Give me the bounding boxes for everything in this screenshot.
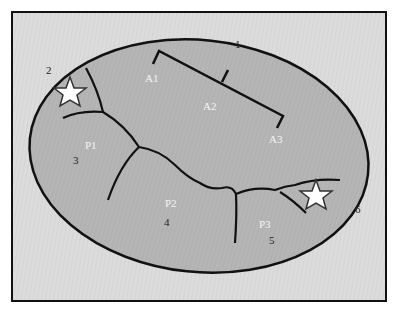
label-1: 1 — [235, 38, 241, 50]
river-tributary-south — [235, 194, 236, 243]
label-3: 3 — [73, 154, 79, 166]
label-5: 5 — [269, 234, 275, 246]
label-4: 4 — [164, 216, 170, 228]
label-a3: A3 — [269, 133, 283, 145]
label-6: 6 — [355, 203, 361, 215]
label-a1: A1 — [145, 72, 158, 84]
label-p1: P1 — [85, 139, 97, 151]
label-2: 2 — [46, 64, 52, 76]
watershed-diagram: A1 A2 A3 P1 P2 P3 1 2 3 4 5 6 — [0, 0, 396, 322]
label-p2: P2 — [165, 197, 177, 209]
label-a2: A2 — [203, 100, 216, 112]
label-p3: P3 — [259, 218, 271, 230]
